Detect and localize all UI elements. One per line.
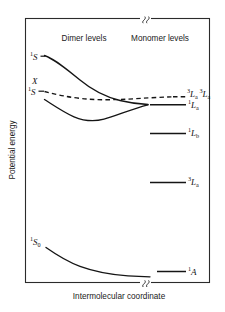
y-axis-label: Potential energy [8, 120, 17, 180]
top-axis-break-icon [140, 14, 151, 23]
curve-upper-singlet [45, 56, 149, 105]
figure-canvas: Dimer levels Monomer levels Potential en… [0, 0, 225, 312]
dimer-levels-header: Dimer levels [61, 34, 106, 43]
plot-frame [26, 19, 210, 283]
energy-level-diagram: Dimer levels Monomer levels Potential en… [0, 0, 225, 312]
dimer-label-ground-state: 1S0 [30, 235, 41, 248]
monomer-levels-header: Monomer levels [131, 34, 189, 43]
monomer-label-singlet-Lb: 1Lb [188, 126, 199, 139]
x-axis-label: Intermolecular coordinate [73, 292, 166, 301]
dimer-label-lower-singlet: 1S [28, 85, 36, 97]
monomer-label-ground-A: 1A [188, 265, 197, 277]
monomer-label-triplet-La-right: 3La [200, 87, 211, 100]
curve-charge-transfer [45, 92, 173, 100]
curve-ground-state [46, 248, 150, 277]
monomer-label-triplet-La: 3La [188, 175, 199, 188]
dimer-label-charge-transfer: X [31, 76, 38, 86]
dimer-label-upper-singlet: 1S [30, 50, 38, 62]
bottom-axis-break-icon [140, 278, 151, 287]
